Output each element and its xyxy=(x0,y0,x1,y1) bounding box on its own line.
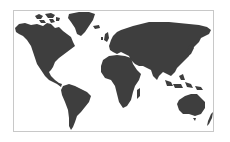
iceland xyxy=(93,25,100,29)
world-map xyxy=(13,10,214,132)
south-america xyxy=(61,84,91,130)
greenland xyxy=(68,12,95,36)
arctic-islands xyxy=(35,13,60,23)
australia xyxy=(177,94,205,121)
british-isles xyxy=(101,32,109,42)
north-america xyxy=(15,23,75,87)
madagascar xyxy=(137,88,140,99)
southeast-asia-islands xyxy=(165,74,203,90)
new-zealand xyxy=(207,112,213,126)
